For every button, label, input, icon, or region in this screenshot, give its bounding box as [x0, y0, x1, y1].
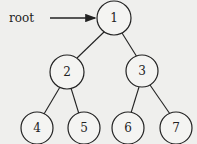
tree-node-3: 3 [126, 55, 158, 87]
tree-node-7: 7 [160, 112, 192, 144]
svg-text:5: 5 [80, 121, 88, 135]
edge-1-2 [77, 32, 104, 58]
svg-text:6: 6 [124, 121, 132, 135]
root-label: root [9, 11, 34, 25]
edge-2-4 [44, 87, 60, 114]
svg-text:7: 7 [172, 121, 180, 135]
svg-text:4: 4 [33, 121, 41, 135]
svg-text:2: 2 [63, 65, 71, 79]
tree-node-4: 4 [21, 112, 53, 144]
tree-node-1: 1 [97, 1, 131, 35]
edge-3-6 [131, 87, 139, 113]
tree-node-6: 6 [112, 112, 144, 144]
svg-text:3: 3 [138, 64, 146, 78]
tree-node-5: 5 [68, 112, 100, 144]
edge-3-7 [150, 85, 170, 114]
binary-tree-diagram: root 1 2 3 4 5 6 7 [0, 0, 197, 144]
svg-text:1: 1 [110, 11, 118, 25]
edge-2-5 [71, 88, 79, 114]
tree-node-2: 2 [50, 55, 84, 89]
edge-1-3 [122, 33, 137, 57]
